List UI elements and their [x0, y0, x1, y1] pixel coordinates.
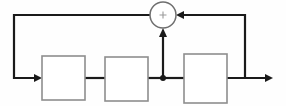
right-feedback-arrowhead	[176, 11, 184, 19]
tap-to-sum-arrowhead	[159, 28, 167, 37]
block-diagram-svg	[0, 0, 286, 106]
output-arrowhead	[265, 74, 273, 82]
block-3[interactable]	[184, 54, 227, 103]
block-group	[42, 54, 227, 103]
summing-junction[interactable]	[150, 2, 176, 28]
forward-path-tap-node	[160, 75, 166, 81]
block-2[interactable]	[105, 57, 148, 101]
block-diagram-canvas	[0, 0, 286, 106]
block-1[interactable]	[42, 56, 85, 100]
left-feedback-arrowhead	[34, 74, 42, 82]
